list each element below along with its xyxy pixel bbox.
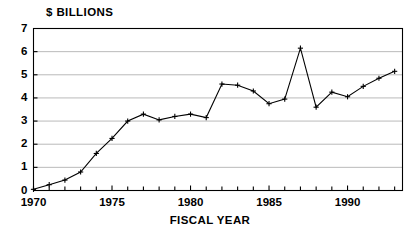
x-tick-label: 1975 bbox=[90, 197, 134, 209]
y-tick-label: 1 bbox=[6, 161, 28, 173]
y-axis-title: $ BILLIONS bbox=[46, 6, 113, 18]
x-tick-label: 1980 bbox=[169, 197, 213, 209]
x-tick-label: 1985 bbox=[247, 197, 291, 209]
y-tick-label: 2 bbox=[6, 138, 28, 150]
y-tick-label: 7 bbox=[6, 23, 28, 35]
gridlines-group bbox=[34, 52, 403, 168]
y-tick-label: 6 bbox=[6, 46, 28, 58]
y-tick-label: 4 bbox=[6, 92, 28, 104]
y-tick-label: 0 bbox=[6, 185, 28, 197]
x-tick-label: 1990 bbox=[326, 197, 370, 209]
data-point-markers bbox=[31, 46, 397, 192]
x-tick-label: 1970 bbox=[12, 197, 56, 209]
y-tick-label: 5 bbox=[6, 69, 28, 81]
y-tick-label: 3 bbox=[6, 115, 28, 127]
plot-frame bbox=[34, 29, 403, 191]
x-axis-title: FISCAL YEAR bbox=[0, 214, 420, 226]
chart-figure: $ BILLIONS 76543210 19701975198019851990… bbox=[0, 0, 420, 242]
data-series-line bbox=[34, 48, 395, 189]
